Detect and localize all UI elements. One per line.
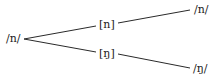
phonology-tree-diagram: /n/ [n] [ŋ] /n/ /ŋ/ bbox=[0, 0, 224, 79]
node-upper-end: /n/ bbox=[194, 4, 209, 15]
node-root: /n/ bbox=[6, 33, 21, 44]
edge-lower-mid-to-lower-end bbox=[118, 54, 190, 68]
edge-root-to-upper-mid bbox=[24, 26, 96, 39]
node-lower-mid: [ŋ] bbox=[99, 48, 115, 59]
connector-lines bbox=[0, 0, 224, 79]
edge-upper-mid-to-upper-end bbox=[118, 10, 190, 23]
node-lower-end: /ŋ/ bbox=[193, 63, 208, 74]
node-upper-mid: [n] bbox=[99, 19, 115, 30]
edge-root-to-lower-mid bbox=[24, 39, 96, 52]
